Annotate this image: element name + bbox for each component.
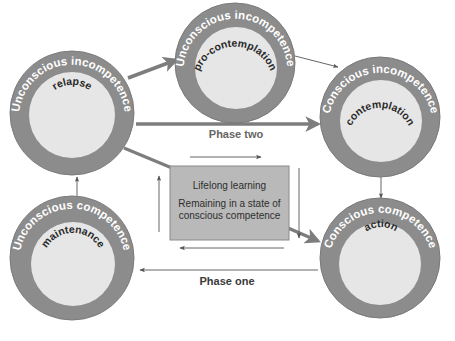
node-action: Conscious competence action xyxy=(320,198,440,318)
phase-one-label: Phase one xyxy=(199,275,254,287)
node-relapse: Unconscious incompetence relapse xyxy=(9,51,134,175)
box-title: Lifelong learning xyxy=(193,180,266,191)
arrow-precontemplation-to-contemplation xyxy=(295,56,338,67)
arrow-relapse-to-precontemplation xyxy=(128,60,176,78)
node-contemplation: Conscious incompetence contemplation xyxy=(320,57,441,177)
phase-two-label: Phase two xyxy=(209,128,264,140)
lifelong-learning-box: Lifelong learning Remaining in a state o… xyxy=(170,166,289,240)
box-line-2: conscious competence xyxy=(179,210,281,221)
node-pro-contemplation: Unconscious incompetence pro-contemplati… xyxy=(174,3,298,123)
node-maintenance: Unconscious competence maintenance xyxy=(10,196,134,320)
learning-cycle-diagram: Lifelong learning Remaining in a state o… xyxy=(0,0,455,341)
arrow-relapse-to-box xyxy=(124,148,172,168)
box-line-1: Remaining in a state of xyxy=(178,198,281,209)
arrow-box-to-action xyxy=(288,228,318,241)
